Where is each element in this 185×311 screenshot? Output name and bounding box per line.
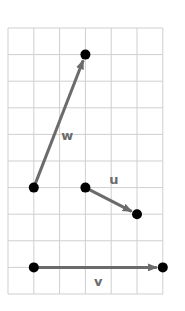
vector-line (34, 60, 83, 187)
vector-label: u (109, 172, 118, 187)
vector-start-point (29, 262, 39, 272)
vector-end-point (158, 262, 168, 272)
vector-label: w (61, 128, 73, 143)
vector-start-point (29, 183, 39, 193)
vector-diagram: wuv (0, 0, 185, 311)
vector-start-point (80, 183, 90, 193)
vector-line (85, 188, 131, 212)
vectors: wuv (29, 50, 168, 289)
vector-end-point (132, 209, 142, 219)
grid (8, 28, 163, 294)
vector-label: v (94, 274, 103, 289)
vector-v: v (29, 262, 168, 289)
vector-end-point (80, 50, 90, 60)
